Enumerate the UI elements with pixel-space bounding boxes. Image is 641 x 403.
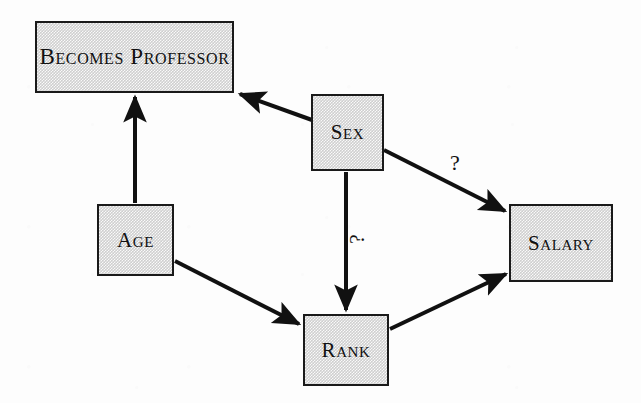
causal-diagram: Becomes Professor Sex Age Salary Rank ? … xyxy=(0,0,641,403)
node-sex[interactable]: Sex xyxy=(311,94,384,171)
edge-rank-to-salary xyxy=(390,274,506,329)
node-becomes-professor[interactable]: Becomes Professor xyxy=(35,21,234,93)
edge-sex-to-salary xyxy=(384,150,505,211)
node-sex-label: Sex xyxy=(331,120,364,145)
node-age[interactable]: Age xyxy=(97,204,174,276)
node-becomes-professor-label: Becomes Professor xyxy=(40,43,230,70)
node-age-label: Age xyxy=(117,228,154,253)
node-salary-label: Salary xyxy=(528,231,594,256)
node-rank-label: Rank xyxy=(322,338,371,363)
edge-age-to-rank xyxy=(175,261,299,324)
node-salary[interactable]: Salary xyxy=(509,204,613,282)
node-rank[interactable]: Rank xyxy=(303,314,389,386)
edge-sex-to-becomes-professor xyxy=(240,94,312,120)
